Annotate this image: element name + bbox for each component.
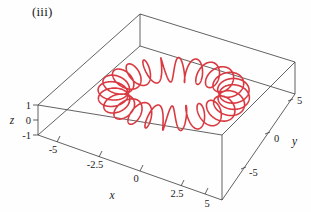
figure-3d-toroidal-coil: (iii) 1 0 -1 xyxy=(0,0,311,212)
x-tick-mark-neg2p5 xyxy=(99,151,102,157)
x-tick-mark-5 xyxy=(205,188,208,194)
box-edge-bottom-left-front xyxy=(38,135,222,200)
x-tick-label-5: 5 xyxy=(204,198,209,209)
y-tick-label-neg5: -5 xyxy=(249,167,258,178)
z-axis: 1 0 -1 z xyxy=(9,100,38,141)
y-tick-label-0: 0 xyxy=(274,133,279,144)
toroidal-coil-curve xyxy=(98,58,249,131)
y-axis: 5 0 -5 y xyxy=(241,95,302,178)
x-tick-label-0: 0 xyxy=(133,173,138,184)
plot-canvas: 1 0 -1 z -5 -2.5 0 2.5 5 x 5 0 -5 xyxy=(0,0,311,212)
y-axis-title: y xyxy=(291,135,298,148)
z-tick-label-0: 0 xyxy=(26,115,31,126)
coil-path xyxy=(98,58,249,131)
x-tick-mark-2p5 xyxy=(181,180,184,186)
x-tick-label-2p5: 2.5 xyxy=(170,188,183,199)
x-axis-title: x xyxy=(108,189,115,201)
x-tick-label-neg2p5: -2.5 xyxy=(87,159,104,170)
z-tick-label-1: 1 xyxy=(26,100,31,111)
panel-label: (iii) xyxy=(32,4,53,20)
x-tick-mark-0 xyxy=(140,165,143,171)
y-tick-label-5: 5 xyxy=(297,95,302,106)
x-tick-label-neg5: -5 xyxy=(49,144,58,155)
z-tick-label-neg1: -1 xyxy=(22,130,31,141)
x-tick-mark-neg5 xyxy=(57,136,60,142)
z-axis-title: z xyxy=(9,114,15,126)
